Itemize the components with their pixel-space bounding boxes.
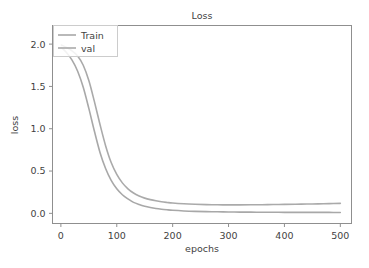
x-tick-label: 200	[164, 230, 182, 241]
legend-label-val: val	[81, 43, 95, 54]
chart-legend: Train val	[54, 26, 118, 57]
x-tick-label: 0	[58, 230, 64, 241]
chart-title: Loss	[192, 10, 213, 21]
chart-figure: Loss 0100200300400500 0.00.51.01.52.0 ep…	[0, 0, 369, 268]
y-tick-label: 0.0	[30, 208, 45, 219]
x-axis-label: epochs	[185, 243, 219, 254]
y-tick-label: 1.5	[30, 81, 45, 92]
x-tick-label: 400	[275, 230, 293, 241]
x-tick-label: 100	[108, 230, 126, 241]
x-tick-label: 300	[219, 230, 237, 241]
loss-line-chart: Loss 0100200300400500 0.00.51.01.52.0 ep…	[0, 0, 369, 268]
y-axis-label: loss	[9, 116, 20, 134]
x-tick-label: 500	[331, 230, 349, 241]
y-tick-label: 0.5	[30, 165, 45, 176]
y-tick-label: 2.0	[30, 39, 45, 50]
y-tick-label: 1.0	[30, 123, 45, 134]
legend-label-train: Train	[80, 30, 104, 41]
